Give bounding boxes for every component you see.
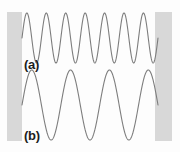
wave-a-curve <box>22 13 158 63</box>
standing-wave-figure: (a) (b) <box>0 0 180 152</box>
wave-b-label: (b) <box>24 129 40 142</box>
wave-b-curve <box>22 70 158 140</box>
wave-a-label: (a) <box>24 58 39 71</box>
